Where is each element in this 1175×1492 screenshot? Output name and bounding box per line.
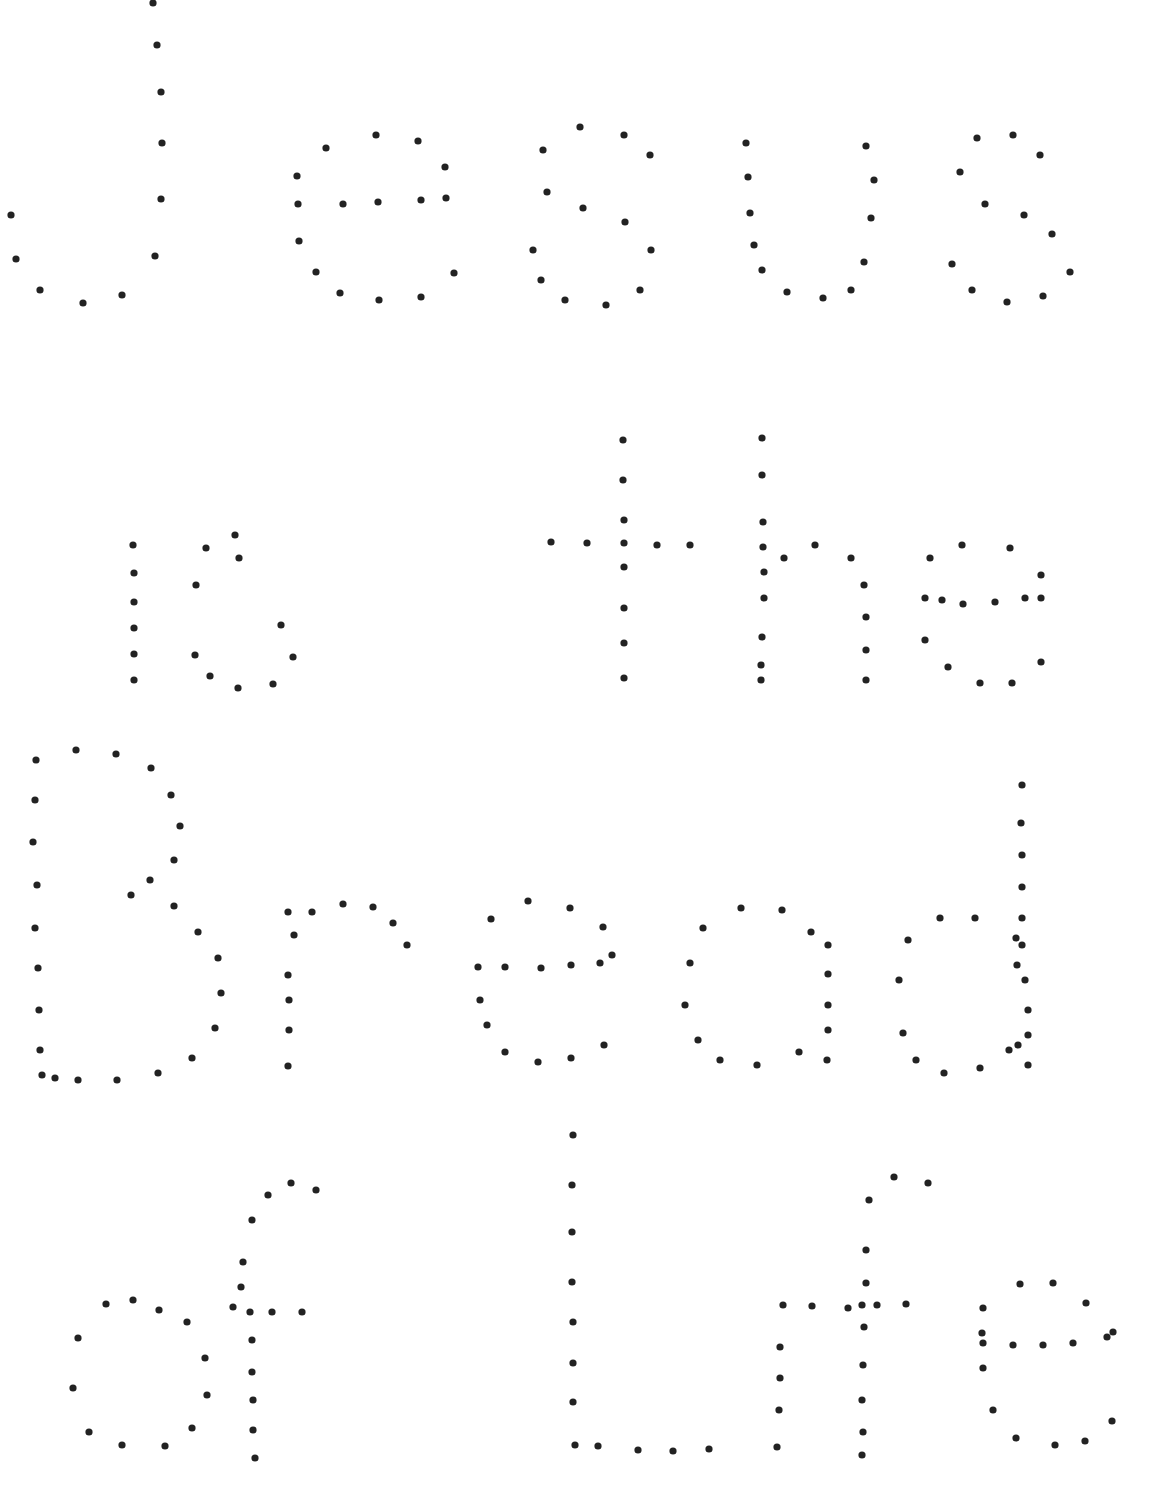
trace-dot: [795, 1048, 802, 1055]
trace-dot: [1018, 851, 1025, 858]
trace-dot: [759, 543, 766, 550]
trace-dot: [569, 1359, 576, 1366]
trace-dot: [217, 989, 224, 996]
trace-dot: [130, 624, 137, 631]
trace-dot: [775, 1406, 782, 1413]
trace-dot: [154, 1069, 161, 1076]
trace-dot: [779, 1301, 786, 1308]
trace-dot: [773, 1443, 780, 1450]
trace-dot: [285, 1026, 292, 1033]
trace-dot: [1006, 544, 1013, 551]
trace-dot: [1082, 1299, 1089, 1306]
trace-dot: [246, 1308, 253, 1315]
trace-dot: [862, 646, 869, 653]
trace-dot: [127, 891, 134, 898]
trace-dot: [153, 41, 160, 48]
trace-dot: [758, 633, 765, 640]
word-jesus: [7, 0, 1073, 309]
trace-dot: [287, 1179, 294, 1186]
trace-dot: [339, 900, 346, 907]
trace-dot: [971, 914, 978, 921]
trace-dot: [36, 286, 43, 293]
trace-dot: [620, 604, 627, 611]
trace-dot: [529, 246, 536, 253]
trace-dot: [1039, 1341, 1046, 1348]
trace-dot: [940, 1069, 947, 1076]
trace-dot: [620, 563, 627, 570]
trace-dot: [339, 200, 346, 207]
trace-dot: [389, 919, 396, 926]
trace-dot: [476, 996, 483, 1003]
trace-dot: [149, 0, 156, 7]
trace-dot: [694, 1036, 701, 1043]
trace-dot: [1013, 961, 1020, 968]
trace-dot: [35, 1006, 42, 1013]
trace-dot: [237, 1283, 244, 1290]
word-is: [129, 531, 296, 691]
trace-dot: [568, 1278, 575, 1285]
trace-dot: [647, 246, 654, 253]
trace-dot: [248, 1336, 255, 1343]
trace-dot: [681, 1001, 688, 1008]
trace-dot: [760, 594, 767, 601]
trace-dot: [183, 1318, 190, 1325]
trace-dot: [1024, 1031, 1031, 1038]
trace-dot: [780, 554, 787, 561]
trace-dot: [249, 1426, 256, 1433]
trace-dot: [759, 518, 766, 525]
trace-dot: [989, 1406, 996, 1413]
trace-dot: [375, 296, 382, 303]
trace-dot: [1024, 1006, 1031, 1013]
trace-dot: [534, 1058, 541, 1065]
trace-dot: [608, 951, 615, 958]
trace-dot: [295, 237, 302, 244]
trace-dot: [547, 538, 554, 545]
trace-dot: [161, 1442, 168, 1449]
trace-dot: [31, 924, 38, 931]
trace-dot: [1048, 230, 1055, 237]
trace-dot: [860, 258, 867, 265]
trace-dot: [284, 908, 291, 915]
trace-dot: [1049, 1279, 1056, 1286]
trace-dot: [858, 1301, 865, 1308]
trace-dot: [824, 941, 831, 948]
trace-dot: [1018, 914, 1025, 921]
trace-dot: [146, 876, 153, 883]
trace-dot: [926, 554, 933, 561]
trace-dot: [1009, 131, 1016, 138]
trace-dot: [157, 195, 164, 202]
trace-dot: [269, 680, 276, 687]
trace-dot: [568, 1228, 575, 1235]
trace-dot: [646, 151, 653, 158]
trace-dot: [417, 293, 424, 300]
trace-dot: [746, 209, 753, 216]
trace-dot: [51, 1074, 58, 1081]
trace-dot: [899, 1029, 906, 1036]
trace-dot: [203, 1391, 210, 1398]
trace-dot: [620, 131, 627, 138]
trace-dot: [566, 904, 573, 911]
trace-dot: [1012, 934, 1019, 941]
trace-dot: [1017, 819, 1024, 826]
trace-dot: [1009, 1341, 1016, 1348]
trace-dot: [561, 296, 568, 303]
trace-dot: [234, 684, 241, 691]
trace-dot: [890, 1173, 897, 1180]
trace-dot: [824, 1026, 831, 1033]
trace-dot: [450, 269, 457, 276]
trace-dot: [129, 1296, 136, 1303]
trace-dot: [336, 289, 343, 296]
trace-dot: [403, 941, 410, 948]
trace-dot: [653, 541, 660, 548]
trace-dot: [859, 1428, 866, 1435]
trace-dot: [602, 301, 609, 308]
trace-dot: [811, 541, 818, 548]
trace-dot: [583, 539, 590, 546]
trace-dot: [978, 1329, 985, 1336]
trace-dot: [248, 1368, 255, 1375]
trace-dot: [229, 1303, 236, 1310]
trace-dot: [442, 194, 449, 201]
trace-dot: [417, 196, 424, 203]
trace-dot: [776, 1343, 783, 1350]
trace-dot: [979, 1364, 986, 1371]
